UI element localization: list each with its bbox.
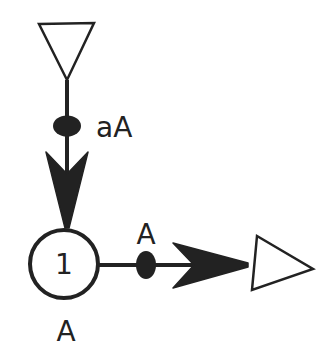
incoming-edge-label: aA	[96, 111, 132, 144]
diagram-canvas: aA 1 A A	[0, 0, 329, 360]
place-1-label: A	[56, 315, 75, 348]
source-triangle[interactable]	[39, 23, 94, 80]
place-1-number: 1	[55, 248, 73, 281]
outgoing-edge-label: A	[136, 218, 155, 251]
sink-triangle[interactable]	[252, 236, 313, 290]
incoming-edge-marker	[53, 116, 81, 137]
outgoing-edge-marker	[136, 251, 156, 279]
